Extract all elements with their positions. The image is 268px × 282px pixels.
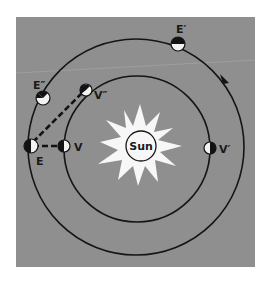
label-v-double-prime: V″ xyxy=(94,89,108,102)
planet-earth-e xyxy=(24,139,38,153)
planet-venus-v-prime xyxy=(204,142,216,154)
label-v-prime: V′ xyxy=(219,143,231,156)
planet-venus-v xyxy=(58,140,70,152)
label-e: E xyxy=(36,155,44,168)
label-v: V xyxy=(74,141,83,154)
label-e-prime: E′ xyxy=(176,23,187,36)
planet-earth-e-prime xyxy=(171,37,185,51)
sun-label: Sun xyxy=(129,140,153,153)
planet-earth-e-double-prime xyxy=(36,91,50,105)
label-e-double-prime: E″ xyxy=(33,79,46,92)
planet-venus-v-double-prime xyxy=(80,84,92,96)
orbit-diagram: Sun E E′ E″ V V′ V″ xyxy=(0,0,268,282)
